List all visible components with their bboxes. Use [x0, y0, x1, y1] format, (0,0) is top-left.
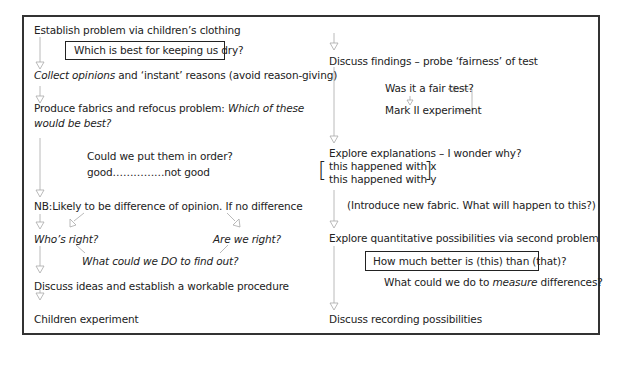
quantitative-question: How much better is (this) than (that)? — [373, 255, 566, 268]
fair-test-question: Was it a fair test? — [385, 82, 474, 95]
measure-question-post: differences? — [537, 276, 602, 288]
quantitative-question-box: How much better is (this) than (that)? — [365, 251, 539, 271]
introduce-new-fabric: (Introduce new fabric. What will happen … — [347, 199, 596, 212]
step-discuss-recording: Discuss recording possibilities — [329, 313, 482, 326]
find-out-question: What could we DO to find out? — [82, 255, 238, 268]
happened-with-y: this happened with y — [329, 173, 436, 186]
step-discuss-findings: Discuss findings – probe ‘fairness’ of t… — [329, 55, 538, 68]
mark-ii-experiment: Mark II experiment — [385, 104, 481, 117]
step-discuss-ideas: Discuss ideas and establish a workable p… — [34, 280, 289, 293]
step-collect-opinions: Collect opinions and ‘instant’ reasons (… — [34, 69, 337, 82]
step-establish-problem: Establish problem via children’s clothin… — [34, 24, 241, 37]
step-produce-fabrics: Produce fabrics and refocus problem: Whi… — [34, 102, 304, 115]
step-children-experiment: Children experiment — [34, 313, 138, 326]
step-difference-of-opinion: NB:Likely to be difference of opinion. I… — [34, 200, 303, 213]
left-bracket: [ — [318, 159, 327, 181]
measure-question: What could we do to measure differences? — [384, 276, 603, 289]
measure-question-pre: What could we do to — [384, 276, 492, 288]
whos-right-label: Who’s right? — [34, 233, 98, 246]
produce-fabrics-question: Which of these — [228, 102, 304, 114]
collect-opinions-rest: and ‘instant’ reasons (avoid reason-givi… — [115, 69, 337, 81]
measure-emphasis: measure — [492, 276, 537, 288]
order-question: Could we put them in order? — [87, 150, 233, 163]
produce-fabrics-text: Produce fabrics and refocus problem: — [34, 102, 228, 114]
right-bracket: ] — [424, 159, 433, 181]
happened-with-x: this happened with x — [329, 160, 436, 173]
produce-fabrics-question-cont: would be best? — [34, 117, 111, 130]
order-scale: good……………not good — [87, 166, 210, 179]
step-explore-quantitative: Explore quantitative possibilities via s… — [329, 232, 599, 245]
collect-opinions-emphasis: Collect opinions — [34, 69, 115, 81]
are-we-right-label: Are we right? — [213, 233, 281, 246]
key-question: Which is best for keeping us dry? — [74, 44, 243, 57]
key-question-box: Which is best for keeping us dry? — [65, 41, 225, 60]
